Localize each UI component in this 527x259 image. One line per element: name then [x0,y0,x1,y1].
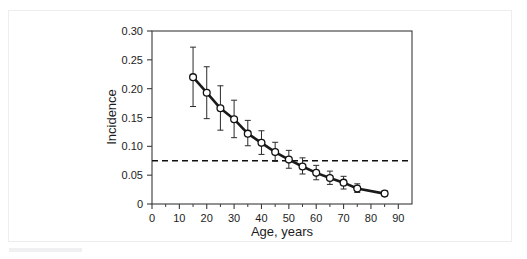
x-tick-label: 30 [228,212,240,224]
plot-frame [152,31,412,204]
x-tick-label: 70 [337,212,349,224]
x-tick-label: 40 [255,212,267,224]
data-point-marker [326,175,333,182]
x-tick-label: 20 [201,212,213,224]
data-point-marker [217,105,224,112]
x-tick-label: 60 [310,212,322,224]
incidence-series-line [193,77,385,193]
data-point-marker [203,89,210,96]
data-point-markers [190,74,388,197]
data-point-marker [313,169,320,176]
data-point-marker [258,139,265,146]
y-tick-label: 0.20 [122,83,143,95]
x-tick-label: 10 [173,212,185,224]
x-tick-label: 90 [392,212,404,224]
y-tick-label: 0 [137,198,143,210]
data-point-marker [285,156,292,163]
data-point-marker [231,116,238,123]
x-tick-label: 50 [283,212,295,224]
data-point-marker [299,163,306,170]
figure-root: 00.050.100.150.200.250.30 01020304050607… [0,0,527,259]
data-point-marker [190,74,197,81]
incidence-vs-age-chart: 00.050.100.150.200.250.30 01020304050607… [0,0,527,259]
y-tick-label: 0.15 [122,112,143,124]
x-tick-label: 0 [149,212,155,224]
x-axis-title: Age, years [251,224,314,239]
data-point-marker [340,179,347,186]
y-tick-label: 0.10 [122,140,143,152]
plot-svg: 00.050.100.150.200.250.30 01020304050607… [0,0,527,259]
data-point-marker [381,190,388,197]
y-axis-title: Incidence [104,89,119,145]
x-tick-label: 80 [365,212,377,224]
data-point-marker [354,185,361,192]
data-point-marker [272,149,279,156]
error-bars [190,47,388,196]
data-point-marker [244,130,251,137]
y-axis-ticks: 00.050.100.150.200.250.30 [122,25,152,210]
y-tick-label: 0.30 [122,25,143,37]
y-tick-label: 0.05 [122,169,143,181]
y-tick-label: 0.25 [122,54,143,66]
x-axis-ticks: 0102030405060708090 [149,204,405,224]
